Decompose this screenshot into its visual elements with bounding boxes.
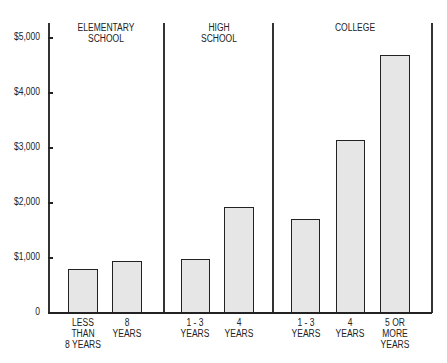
bar-elementary-less-than-8 — [68, 269, 98, 313]
y-axis-line — [48, 23, 50, 313]
y-tick — [48, 147, 53, 149]
x-label: LESS THAN 8 YEARS — [62, 317, 105, 350]
bar-highschool-4 — [224, 207, 254, 313]
x-label: 8 YEARS — [106, 317, 149, 339]
bar-college-4 — [336, 140, 365, 313]
bar-college-5-or-more — [380, 55, 410, 313]
x-label: 4 YEARS — [329, 317, 372, 339]
x-label: 4 YEARS — [218, 317, 261, 339]
bar-college-1-3 — [291, 219, 320, 313]
group-title-highschool: HIGH SCHOOL — [186, 22, 252, 44]
y-tick — [48, 92, 53, 94]
group-title-college: COLLEGE — [317, 22, 394, 33]
y-tick-label: $2,000 — [6, 196, 40, 208]
divider-highschool-college — [272, 23, 274, 313]
y-tick — [48, 202, 53, 204]
y-tick-label: 0 — [6, 306, 40, 318]
y-tick-label: $3,000 — [6, 141, 40, 153]
bar-elementary-8 — [112, 261, 142, 313]
x-label: 1 - 3 YEARS — [285, 317, 328, 339]
y-tick — [48, 37, 53, 39]
y-tick-label: $5,000 — [6, 31, 40, 43]
y-tick — [48, 257, 53, 259]
divider-elementary-highschool — [163, 23, 165, 313]
y-tick-label: $4,000 — [6, 86, 40, 98]
divider-right-border — [431, 23, 433, 313]
x-label: 1 - 3 YEARS — [174, 317, 217, 339]
bar-highschool-1-3 — [181, 259, 210, 313]
y-tick-label: $1,000 — [6, 251, 40, 263]
x-label: 5 OR MORE YEARS — [374, 317, 417, 350]
group-title-elementary: ELEMENTARY SCHOOL — [71, 22, 141, 44]
